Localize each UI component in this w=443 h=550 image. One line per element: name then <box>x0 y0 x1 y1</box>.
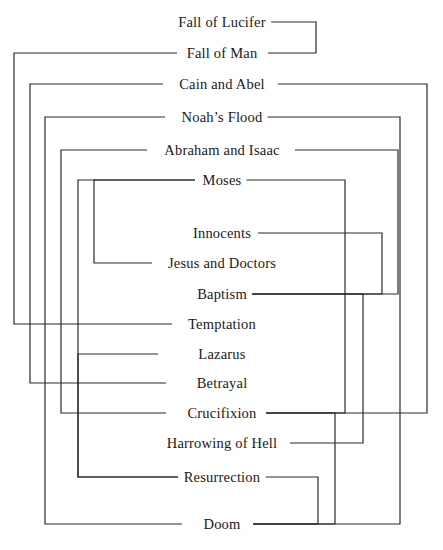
episode-linkage-diagram: Fall of LuciferFall of ManCain and AbelN… <box>0 0 443 550</box>
episode-label-abraham-and-isaac: Abraham and Isaac <box>159 143 284 158</box>
episode-label-betrayal: Betrayal <box>192 376 253 391</box>
episode-label-crucifixion: Crucifixion <box>182 406 261 421</box>
connection-line <box>61 150 166 413</box>
connection-line <box>14 53 177 324</box>
episode-label-moses: Moses <box>198 173 247 188</box>
connection-line <box>78 354 178 477</box>
episode-label-fall-of-lucifer: Fall of Lucifer <box>173 15 271 30</box>
connection-line <box>248 294 363 443</box>
episode-label-baptism: Baptism <box>192 287 252 302</box>
episode-label-doom: Doom <box>198 517 245 532</box>
connection-line <box>78 180 195 477</box>
episode-label-harrowing-of-hell: Harrowing of Hell <box>162 436 283 451</box>
episode-label-jesus-and-doctors: Jesus and Doctors <box>163 256 281 271</box>
episode-label-innocents: Innocents <box>188 226 256 241</box>
episode-label-fall-of-man: Fall of Man <box>182 46 263 61</box>
episode-label-temptation: Temptation <box>183 317 261 332</box>
connection-line <box>30 84 166 383</box>
connection-line <box>94 180 195 263</box>
connection-line <box>264 22 316 53</box>
episode-label-cain-and-abel: Cain and Abel <box>174 77 270 92</box>
episode-label-noahs-flood: Noah’s Flood <box>177 110 268 125</box>
episode-label-lazarus: Lazarus <box>193 347 250 362</box>
episode-label-resurrection: Resurrection <box>179 470 266 485</box>
connection-line <box>45 117 182 524</box>
connection-line <box>243 180 345 413</box>
connection-line <box>253 413 335 524</box>
connection-line <box>248 150 398 294</box>
connection-line <box>253 117 400 524</box>
connection-line <box>266 84 427 413</box>
